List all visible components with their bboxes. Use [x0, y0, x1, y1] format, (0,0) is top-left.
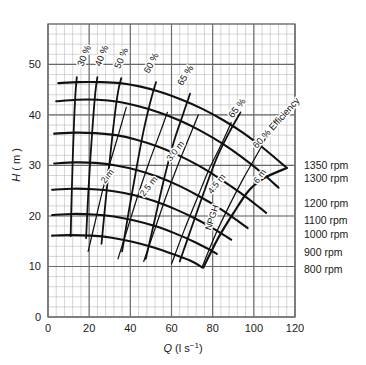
rpm-legend-1200-rpm: 1200 rpm [304, 197, 349, 209]
x-tick-label-60: 60 [165, 322, 177, 334]
y-tick-label-10: 10 [29, 260, 41, 272]
y-tick-label-0: 0 [35, 311, 41, 323]
y-tick-label-40: 40 [29, 109, 41, 121]
rpm-legend-900-rpm: 900 rpm [304, 246, 343, 258]
rpm-legend-group: 1350 rpm1300 rpm1200 rpm1100 rpm1000 rpm… [304, 159, 349, 274]
y-tick-label-30: 30 [29, 159, 41, 171]
y-tick-label-20: 20 [29, 210, 41, 222]
pump-performance-chart: 30 %40 %50 %60 %65 %65 %60 % Efficiency … [0, 0, 366, 365]
y-tick-label-50: 50 [29, 58, 41, 70]
x-tick-label-20: 20 [83, 322, 95, 334]
rpm-legend-1350-rpm: 1350 rpm [304, 159, 349, 171]
y-axis-title-text: H ( m ) [10, 148, 22, 182]
chart-canvas: 30 %40 %50 %60 %65 %65 %60 % Efficiency … [0, 0, 366, 365]
y-axis-title: H ( m ) [10, 148, 22, 182]
x-tick-label-120: 120 [286, 322, 304, 334]
rpm-legend-1000-rpm: 1000 rpm [304, 228, 349, 240]
rpm-legend-1300-rpm: 1300 rpm [304, 172, 349, 184]
x-tick-label-40: 40 [124, 322, 136, 334]
x-tick-label-0: 0 [45, 322, 51, 334]
rpm-legend-800-rpm: 800 rpm [304, 263, 343, 275]
x-tick-label-80: 80 [207, 322, 219, 334]
rpm-legend-1100-rpm: 1100 rpm [304, 214, 348, 226]
x-tick-label-100: 100 [245, 322, 263, 334]
